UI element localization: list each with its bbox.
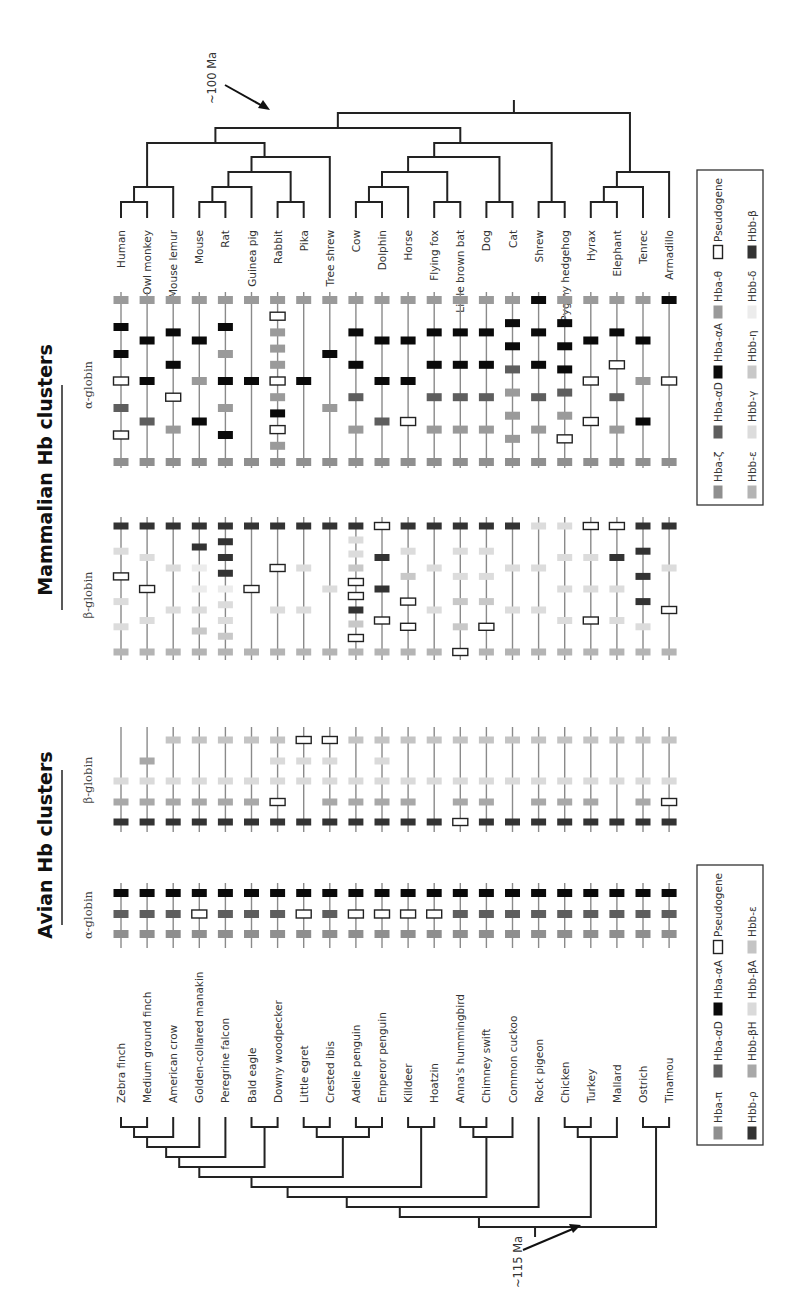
gene-alphaD-icon [505, 910, 520, 918]
gene-alphaD-icon [348, 393, 363, 401]
legend-label: Hba-αA [712, 959, 724, 999]
gene-zeta-icon [218, 458, 233, 466]
beta-cluster [427, 727, 442, 832]
gene-betaH-icon [218, 799, 233, 806]
gene-eps-icon [531, 649, 546, 656]
avian-alpha-label: α-globin [81, 890, 95, 939]
gene-alphaA-icon [192, 889, 207, 897]
gene-theta-icon [218, 350, 233, 358]
gene-eta-icon [401, 573, 416, 580]
gene-betaA-icon [270, 778, 285, 785]
gene-alphaD-icon [531, 393, 546, 401]
taxon-label: Chicken [559, 1062, 571, 1104]
gene-pseudo-icon [270, 799, 285, 806]
gene-alphaA-icon [114, 323, 129, 331]
gene-pseudo-icon [114, 377, 129, 385]
taxon-label: Chimney swift [480, 1029, 492, 1103]
gene-gamma-icon [140, 554, 155, 561]
gene-gamma-icon [531, 607, 546, 614]
gene-pseudo-icon [662, 607, 677, 614]
gene-eps-icon [348, 649, 363, 656]
tree-branch [347, 1117, 539, 1207]
gene-eta-icon [218, 633, 233, 640]
gene-betaA-icon [322, 778, 337, 785]
beta-cluster [557, 727, 572, 832]
alpha-cluster [401, 292, 416, 468]
gene-eps-icon [375, 737, 390, 744]
beta-cluster [375, 727, 390, 832]
taxon-label: Hoatzin [428, 1063, 440, 1103]
avian-divergence-label: ~115 Ma [511, 1236, 525, 1288]
gene-rho-icon [166, 819, 181, 826]
gene-betaA-icon [322, 758, 337, 765]
gene-beta-icon [453, 523, 468, 530]
alpha-cluster [114, 292, 129, 468]
gene-theta-icon [348, 426, 363, 434]
alpha-cluster [375, 883, 390, 948]
gene-eps-icon [609, 737, 624, 744]
gene-pi-icon [557, 930, 572, 938]
alpha-cluster [348, 883, 363, 948]
gene-theta-icon [557, 412, 572, 420]
gene-gamma-icon [583, 554, 598, 561]
avian-legend: Hba-πHba-αDHba-αAPseudogeneHbb-ρHbb-βHHb… [697, 865, 763, 1145]
gene-pseudo-icon [427, 910, 442, 918]
gene-beta-icon [505, 523, 520, 530]
gene-betaH-icon [244, 799, 259, 806]
gene-eps-icon [140, 649, 155, 656]
gene-alphaA-icon [218, 431, 233, 439]
gene-pseudo-icon [453, 819, 468, 826]
gene-alphaA-icon [583, 889, 598, 897]
gene-rho-icon [270, 819, 285, 826]
tree-branch [199, 202, 225, 218]
gene-eta-icon [348, 621, 363, 628]
gene-betaA-icon [479, 778, 494, 785]
taxon-label: Guinea pig [246, 230, 258, 287]
beta-cluster [270, 517, 285, 660]
gene-zeta-icon [114, 458, 129, 466]
gene-beta-icon [636, 523, 651, 530]
gene-alphaD-icon [479, 393, 494, 401]
alpha-cluster [218, 292, 233, 468]
legend-label: Hba-π [712, 1091, 724, 1123]
beta-cluster [166, 727, 181, 832]
gene-zeta-icon [427, 458, 442, 466]
gene-eps-icon [218, 649, 233, 656]
gene-gamma-icon [531, 523, 546, 530]
gene-rho-icon [296, 819, 311, 826]
gene-rho-icon [748, 1127, 757, 1140]
gene-beta-icon [348, 523, 363, 530]
gene-eps-icon [609, 649, 624, 656]
gene-pseudo-icon [583, 617, 598, 624]
gene-gamma-icon [583, 586, 598, 593]
taxon-label: Anna's hummingbird [454, 994, 466, 1103]
gene-pseudo-icon [348, 635, 363, 642]
gene-pseudo-icon [375, 617, 390, 624]
tree-branch [317, 1127, 369, 1137]
beta-cluster [348, 727, 363, 832]
gene-theta-icon [636, 296, 651, 304]
legend-label: Hba-ζ [712, 451, 724, 482]
taxon-label: Killdeer [402, 1063, 414, 1103]
legend-label: Hbb-βA [746, 959, 758, 999]
taxon-label: Human [115, 230, 127, 268]
gene-alphaA-icon [662, 296, 677, 304]
gene-gamma-icon [427, 565, 442, 572]
gene-alphaD-icon [453, 393, 468, 401]
gene-pi-icon [375, 930, 390, 938]
gene-gamma-icon [322, 586, 337, 593]
gene-beta-icon [375, 554, 390, 561]
tree-branch [215, 128, 460, 143]
taxon-label: Rabbit [272, 230, 284, 264]
gene-rho-icon [244, 819, 259, 826]
tree-branch [166, 1117, 225, 1157]
beta-cluster [583, 727, 598, 832]
gene-betaA-icon [375, 758, 390, 765]
gene-alphaD-icon [636, 910, 651, 918]
gene-beta-icon [192, 544, 207, 551]
gene-pseudo-icon [401, 598, 416, 605]
taxon-label: Armadillo [663, 230, 675, 280]
avian-taxon-labels: Zebra finchMedium ground finchAmerican c… [115, 972, 675, 1104]
tree-branch [643, 1117, 669, 1127]
gene-pseudo-icon [375, 910, 390, 918]
